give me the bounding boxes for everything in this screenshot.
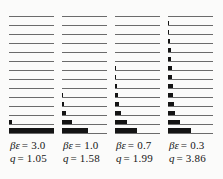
energy-levels bbox=[62, 8, 107, 134]
energy-level-row bbox=[168, 62, 213, 71]
beta-label-symbol: βε bbox=[63, 139, 73, 151]
energy-levels bbox=[168, 8, 213, 134]
panel-2: βε= 1.0q= 1.58 bbox=[62, 8, 107, 164]
energy-level-row bbox=[168, 8, 213, 17]
energy-level-row bbox=[168, 98, 213, 107]
energy-level-row bbox=[115, 17, 160, 26]
energy-level-row bbox=[9, 44, 54, 53]
energy-level-row bbox=[62, 89, 107, 98]
occupation-bar bbox=[168, 84, 173, 88]
occupation-bar bbox=[9, 120, 12, 124]
occupation-bar bbox=[168, 75, 172, 79]
occupation-bar bbox=[115, 102, 119, 106]
beta-label: βε= 0.7 bbox=[116, 139, 160, 152]
panel-labels: βε= 0.3q= 3.86 bbox=[168, 139, 213, 164]
occupation-bar bbox=[115, 111, 121, 115]
energy-level-line bbox=[62, 133, 107, 134]
energy-level-line bbox=[168, 133, 213, 134]
panels-row: βε= 3.0q= 1.05βε= 1.0q= 1.58βε= 0.7q= 1.… bbox=[9, 8, 223, 164]
energy-level-row bbox=[9, 17, 54, 26]
energy-level-row bbox=[62, 125, 107, 134]
energy-level-row bbox=[9, 71, 54, 80]
energy-level-occupation-figure: βε= 3.0q= 1.05βε= 1.0q= 1.58βε= 0.7q= 1.… bbox=[0, 0, 223, 179]
beta-label-symbol: βε bbox=[116, 139, 126, 151]
energy-level-row bbox=[168, 71, 213, 80]
energy-level-row bbox=[9, 53, 54, 62]
occupation-bar bbox=[168, 128, 191, 133]
energy-level-row bbox=[115, 53, 160, 62]
occupation-bar bbox=[115, 93, 118, 97]
energy-level-row bbox=[9, 80, 54, 89]
occupation-bar bbox=[62, 93, 63, 97]
beta-label: βε= 0.3 bbox=[169, 139, 213, 152]
occupation-bar bbox=[168, 102, 174, 106]
energy-level-row bbox=[62, 80, 107, 89]
energy-level-row bbox=[115, 125, 160, 134]
energy-level-row bbox=[62, 53, 107, 62]
energy-level-row bbox=[62, 17, 107, 26]
occupation-bar bbox=[115, 84, 117, 88]
energy-level-row bbox=[115, 62, 160, 71]
panel-labels: βε= 1.0q= 1.58 bbox=[62, 139, 107, 164]
energy-level-row bbox=[115, 71, 160, 80]
energy-level-row bbox=[9, 35, 54, 44]
beta-label: βε= 1.0 bbox=[63, 139, 107, 152]
q-label-symbol: q bbox=[116, 152, 122, 164]
beta-label-value: = 1.0 bbox=[75, 139, 99, 151]
energy-level-row bbox=[168, 53, 213, 62]
occupation-bar bbox=[115, 66, 116, 70]
energy-level-row bbox=[9, 98, 54, 107]
energy-level-row bbox=[62, 98, 107, 107]
energy-level-row bbox=[168, 125, 213, 134]
occupation-bar bbox=[168, 57, 171, 61]
energy-level-row bbox=[62, 62, 107, 71]
energy-level-row bbox=[62, 116, 107, 125]
energy-level-row bbox=[62, 35, 107, 44]
panel-labels: βε= 3.0q= 1.05 bbox=[9, 139, 54, 164]
q-label-value: = 3.86 bbox=[177, 152, 206, 164]
occupation-bar bbox=[168, 30, 169, 34]
occupation-bar bbox=[115, 128, 137, 133]
occupation-bar bbox=[168, 111, 175, 115]
energy-level-row bbox=[9, 26, 54, 35]
energy-level-row bbox=[62, 26, 107, 35]
energy-level-row bbox=[9, 62, 54, 71]
panel-1: βε= 3.0q= 1.05 bbox=[9, 8, 54, 164]
q-label-symbol: q bbox=[169, 152, 175, 164]
energy-level-row bbox=[115, 35, 160, 44]
q-label: q= 1.58 bbox=[63, 152, 107, 165]
occupation-bar bbox=[62, 102, 64, 106]
q-label-value: = 1.99 bbox=[124, 152, 153, 164]
panel-3: βε= 0.7q= 1.99 bbox=[115, 8, 160, 164]
panel-4: βε= 0.3q= 3.86 bbox=[168, 8, 213, 164]
occupation-bar bbox=[168, 93, 173, 97]
panel-labels: βε= 0.7q= 1.99 bbox=[115, 139, 160, 164]
energy-level-row bbox=[9, 8, 54, 17]
energy-level-row bbox=[115, 107, 160, 116]
occupation-bar bbox=[168, 39, 170, 43]
occupation-bar bbox=[62, 128, 88, 133]
energy-level-row bbox=[9, 125, 54, 134]
energy-level-row bbox=[115, 98, 160, 107]
occupation-bar bbox=[168, 120, 180, 124]
energy-level-row bbox=[62, 8, 107, 17]
q-label-value: = 1.58 bbox=[71, 152, 100, 164]
occupation-bar bbox=[168, 21, 169, 25]
energy-level-row bbox=[62, 44, 107, 53]
energy-level-row bbox=[115, 8, 160, 17]
energy-level-row bbox=[115, 26, 160, 35]
occupation-bar bbox=[115, 120, 127, 124]
energy-level-row bbox=[168, 89, 213, 98]
energy-level-row bbox=[168, 116, 213, 125]
occupation-bar bbox=[115, 75, 116, 79]
energy-level-row bbox=[9, 107, 54, 116]
energy-level-row bbox=[115, 116, 160, 125]
energy-level-row bbox=[168, 26, 213, 35]
energy-level-row bbox=[62, 107, 107, 116]
q-label-symbol: q bbox=[10, 152, 16, 164]
q-label: q= 1.99 bbox=[116, 152, 160, 165]
energy-level-row bbox=[168, 17, 213, 26]
energy-level-row bbox=[168, 107, 213, 116]
q-label: q= 1.05 bbox=[10, 152, 54, 165]
occupation-bar bbox=[62, 111, 66, 115]
